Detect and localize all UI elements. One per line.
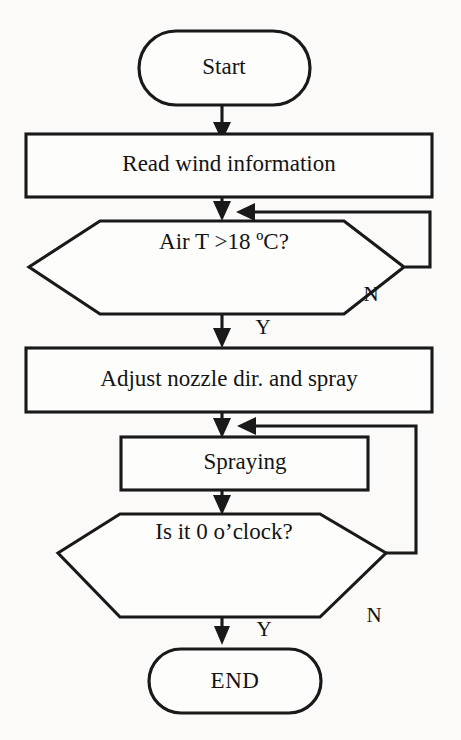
- node-end-label: END: [211, 668, 260, 693]
- node-read-label: Read wind information: [122, 151, 336, 176]
- node-start[interactable]: Start: [139, 31, 310, 105]
- edge-read-to-airt: [213, 197, 231, 221]
- edge-label-airt-yes: Y: [255, 315, 270, 339]
- node-decision-air-temperature[interactable]: Air T >18 ºC?: [29, 221, 404, 314]
- node-read-wind-information[interactable]: Read wind information: [26, 134, 432, 197]
- flowchart-canvas: Start Read wind information Air T >18 ºC…: [0, 0, 461, 740]
- edge-label-clock-yes: Y: [256, 617, 271, 641]
- node-adjust-nozzle[interactable]: Adjust nozzle dir. and spray: [26, 348, 432, 412]
- edge-clock-yes-to-end: [214, 618, 230, 645]
- node-decision-zero-oclock[interactable]: Is it 0 o’clock?: [58, 514, 386, 617]
- node-start-label: Start: [202, 54, 246, 79]
- node-decision-air-temperature-label: Air T >18 ºC?: [159, 229, 289, 254]
- node-decision-zero-oclock-label: Is it 0 o’clock?: [155, 519, 292, 544]
- node-spraying[interactable]: Spraying: [121, 437, 368, 490]
- edge-adjust-to-spray: [213, 412, 231, 438]
- edge-spray-to-clock: [213, 490, 231, 515]
- node-adjust-label: Adjust nozzle dir. and spray: [100, 366, 358, 391]
- edge-label-clock-no: N: [366, 603, 381, 627]
- edge-label-airt-no: N: [363, 282, 378, 306]
- edge-airt-yes-to-adjust: [213, 315, 231, 348]
- node-spraying-label: Spraying: [203, 449, 287, 474]
- node-end[interactable]: END: [149, 649, 321, 713]
- flowchart-page: Start Read wind information Air T >18 ºC…: [0, 0, 461, 740]
